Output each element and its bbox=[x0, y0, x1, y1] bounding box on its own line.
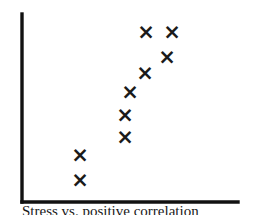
data-point-marker: × bbox=[71, 143, 89, 167]
data-point-marker: × bbox=[71, 168, 89, 192]
data-point-marker: × bbox=[136, 61, 154, 85]
data-point-marker: × bbox=[116, 125, 134, 149]
data-point-marker: × bbox=[116, 103, 134, 127]
data-point-group: ××××××××× bbox=[71, 20, 181, 192]
data-point-marker: × bbox=[163, 20, 181, 44]
data-point-marker: × bbox=[158, 45, 176, 69]
chart-caption: Stress vs. positive correlation bbox=[22, 203, 268, 215]
plot-canvas: ××××××××× bbox=[0, 0, 268, 215]
data-point-marker: × bbox=[137, 20, 155, 44]
scatter-plot-figure: ××××××××× Stress vs. positive correlatio… bbox=[0, 0, 268, 215]
